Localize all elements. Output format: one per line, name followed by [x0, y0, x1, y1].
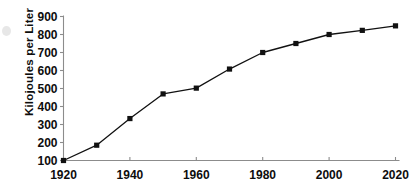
line-chart: 100200300400500600700800900 192019401960…	[0, 0, 420, 194]
x-axis-tick-label: 2020	[374, 168, 418, 182]
chart-plot-area	[0, 0, 420, 194]
x-axis-tick-label: 1940	[108, 168, 152, 182]
data-point-marker	[161, 91, 166, 96]
data-point-marker	[194, 86, 199, 91]
data-point-marker	[393, 23, 398, 28]
data-point-marker	[327, 32, 332, 37]
x-axis-tick-label: 1920	[42, 168, 86, 182]
y-axis-tick-label: 200	[24, 136, 58, 150]
data-point-marker	[127, 116, 132, 121]
data-point-marker	[227, 66, 232, 71]
data-point-marker	[260, 50, 265, 55]
data-point-marker	[293, 41, 298, 46]
y-axis-title: Kilojoules per Liter	[23, 0, 35, 132]
axis-lines	[64, 16, 400, 161]
data-point-marker	[360, 28, 365, 33]
x-axis-tick-label: 1980	[241, 168, 285, 182]
x-axis-tick-label: 1960	[174, 168, 218, 182]
y-axis-tick-label: 100	[24, 154, 58, 168]
axis-tick-marks	[60, 17, 396, 161]
data-line	[64, 26, 396, 161]
data-point-markers	[61, 23, 398, 163]
data-point-marker	[94, 143, 99, 148]
x-axis-tick-label: 2000	[307, 168, 351, 182]
data-point-marker	[61, 158, 66, 163]
